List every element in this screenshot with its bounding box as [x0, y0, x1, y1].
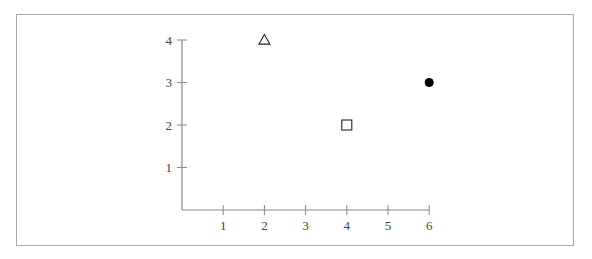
x-axis-ticks: 123456 [220, 205, 433, 233]
x-tick-label: 4 [344, 218, 351, 233]
y-axis-ticks: 1234 [166, 33, 188, 176]
data-points [259, 35, 434, 131]
x-tick-label: 3 [302, 218, 309, 233]
y-tick-label: 1 [166, 160, 173, 175]
triangle-marker [259, 35, 270, 45]
y-tick-label: 4 [166, 33, 173, 48]
square-marker [342, 120, 352, 130]
circle-marker [425, 78, 434, 87]
x-tick-label: 6 [426, 218, 433, 233]
axes [182, 40, 429, 210]
y-tick-label: 2 [166, 118, 173, 133]
x-tick-label: 5 [385, 218, 392, 233]
x-tick-label: 2 [261, 218, 268, 233]
scatter-plot: 123456 1234 [0, 0, 592, 259]
y-tick-label: 3 [166, 75, 173, 90]
x-tick-label: 1 [220, 218, 227, 233]
